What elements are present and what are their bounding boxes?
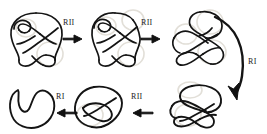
knot-strands-2 [92, 13, 140, 66]
label-rii-2: RII [141, 19, 153, 27]
knot-diagram-5 [70, 84, 128, 132]
unknot-strand [10, 90, 54, 128]
knot-diagram-figure: RII RII [0, 0, 267, 134]
label-ri-right: RI [248, 58, 257, 66]
unknot-diagram [6, 84, 60, 132]
knot-diagram-4 [166, 82, 228, 132]
arrow-4-left [130, 107, 154, 119]
label-rii-1: RII [63, 19, 75, 27]
arrow-2-right [140, 33, 162, 45]
arrow-1-right [62, 33, 84, 45]
knot-diagram-1 [6, 8, 70, 70]
knot-strands-1 [11, 13, 62, 66]
label-rii-3: RII [131, 93, 143, 101]
